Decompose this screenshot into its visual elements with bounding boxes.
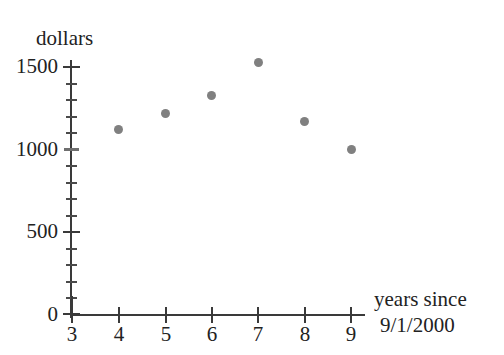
y-minor-tick-1300 — [66, 99, 77, 101]
x-tick-label-6: 6 — [197, 323, 227, 345]
y-minor-tick-200 — [66, 281, 77, 283]
y-tick-500 — [63, 231, 80, 233]
y-tick-1000 — [64, 148, 79, 151]
y-minor-tick-1100 — [66, 132, 77, 134]
y-minor-tick-700 — [66, 198, 77, 200]
y-tick-1500 — [63, 66, 80, 68]
data-point — [347, 145, 356, 154]
x-tick-7 — [257, 307, 259, 323]
scatter-plot-figure: dollars 1500 1000 500 0 3 4 5 6 7 8 9 ye… — [0, 0, 504, 355]
y-minor-tick-800 — [66, 182, 77, 184]
data-point — [254, 58, 263, 67]
x-tick-label-9: 9 — [336, 323, 366, 345]
y-minor-tick-300 — [66, 264, 77, 266]
y-tick-label-group: 1500 1000 500 0 — [0, 0, 58, 355]
x-tick-label-5: 5 — [151, 323, 181, 345]
data-point — [161, 109, 170, 118]
y-tick-label-500: 500 — [27, 221, 59, 242]
data-point — [207, 91, 216, 100]
x-tick-label-4: 4 — [104, 323, 134, 345]
y-tick-label-0: 0 — [48, 304, 59, 325]
x-axis-title-line1: years since — [374, 287, 467, 311]
x-tick-label-7: 7 — [243, 323, 273, 345]
x-axis-line — [70, 314, 365, 316]
x-axis-title-line2: 9/1/2000 — [374, 312, 467, 338]
data-point — [114, 125, 123, 134]
x-tick-8 — [304, 307, 306, 323]
y-minor-tick-400 — [66, 248, 77, 250]
x-axis-title: years since 9/1/2000 — [374, 286, 467, 338]
y-minor-tick-1200 — [66, 116, 77, 118]
x-tick-4 — [118, 307, 120, 323]
x-tick-5 — [165, 307, 167, 323]
y-minor-tick-600 — [66, 215, 77, 217]
x-tick-9 — [350, 307, 352, 323]
data-point — [300, 117, 309, 126]
x-tick-label-3: 3 — [57, 323, 87, 345]
y-minor-tick-900 — [66, 165, 77, 167]
y-tick-label-1000: 1000 — [16, 139, 58, 160]
y-tick-label-1500: 1500 — [16, 56, 58, 77]
x-tick-label-8: 8 — [290, 323, 320, 345]
x-tick-6 — [211, 307, 213, 323]
y-minor-tick-1400 — [66, 83, 77, 85]
x-tick-3 — [71, 296, 73, 323]
